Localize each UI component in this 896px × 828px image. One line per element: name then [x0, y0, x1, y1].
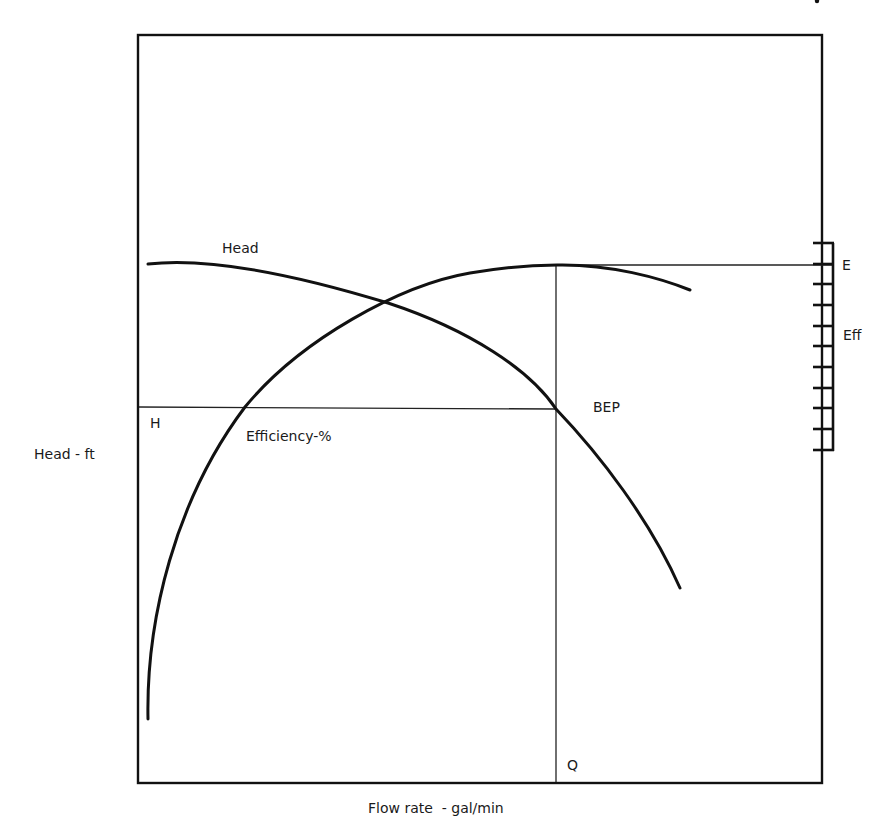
stray-mark — [815, 0, 819, 3]
y-axis-label: Head - ft — [34, 446, 95, 462]
q-marker-label: Q — [567, 757, 578, 773]
x-axis-label: Flow rate - gal/min — [368, 800, 504, 816]
efficiency-curve-label: Efficiency-% — [246, 428, 332, 444]
bep-label: BEP — [593, 399, 620, 415]
head-curve-label: Head — [222, 240, 259, 256]
efficiency-curve — [148, 265, 690, 719]
head-curve — [148, 263, 680, 588]
e-marker-label: E — [842, 257, 851, 273]
eff-scale-label: Eff — [843, 327, 862, 343]
efficiency-scale — [813, 243, 834, 451]
pump-performance-chart — [0, 0, 896, 828]
head-reference-line — [139, 407, 556, 409]
h-marker-label: H — [150, 415, 161, 431]
